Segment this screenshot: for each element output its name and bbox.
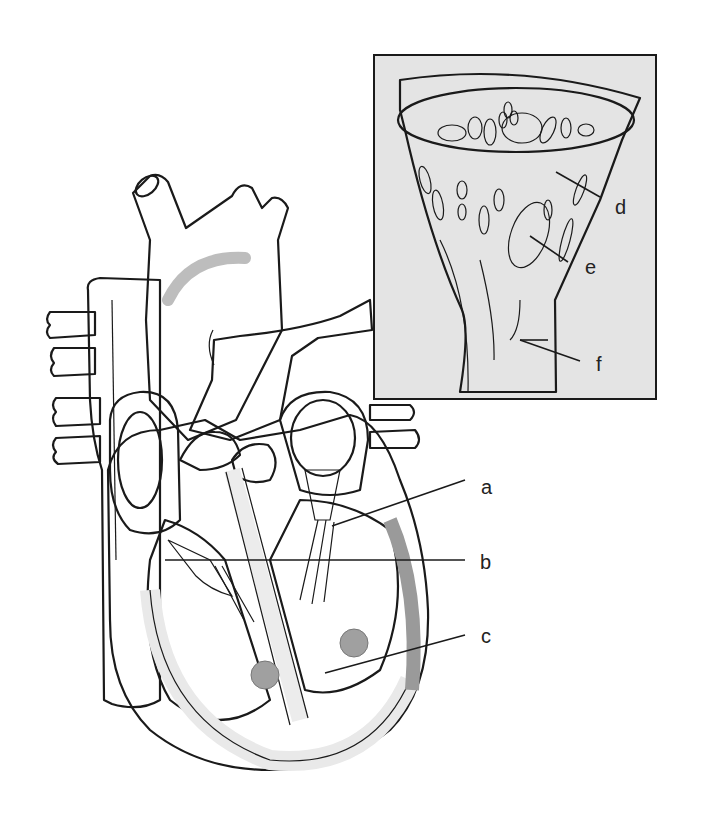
pulmonary-veins-right — [370, 405, 419, 448]
label-a: a — [481, 476, 493, 498]
label-d: d — [615, 196, 626, 218]
aorta — [132, 172, 288, 440]
label-b: b — [480, 551, 491, 573]
pulmonary-veins-left — [47, 312, 100, 464]
label-c: c — [481, 625, 491, 647]
label-f: f — [596, 353, 602, 375]
leader-line-a — [332, 480, 465, 526]
valve-inset — [374, 55, 656, 399]
label-e: e — [585, 256, 596, 278]
heart-diagram: a b c d e f — [0, 0, 703, 830]
